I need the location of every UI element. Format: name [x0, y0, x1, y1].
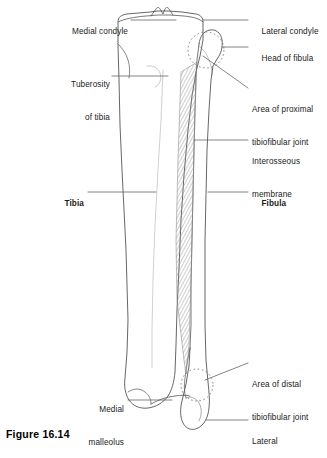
label-medial-condyle-text: Medial condyle — [72, 27, 128, 36]
tibia-anterior-border — [152, 70, 163, 368]
label-tuberosity-of-tibia-line1: Tuberosity — [0, 79, 110, 90]
bone-drawing — [118, 8, 222, 430]
proximal-tibiofibular-joint-marker — [188, 32, 224, 68]
leader-area-of-proximal-tibiofibular-joint — [203, 56, 248, 88]
label-head-of-fibula: Head of fibula — [252, 42, 327, 75]
figure-container: Medial condyle Tuberosity of tibia Tibia… — [0, 0, 327, 458]
medial-malleolus-detail — [128, 389, 151, 404]
label-area-of-proximal-tibiofibular-joint-line1: Area of proximal — [252, 104, 327, 115]
label-tuberosity-of-tibia-line2: of tibia — [0, 112, 110, 123]
label-medial-malleolus-line1: Medial — [0, 404, 124, 415]
leader-lines — [88, 20, 248, 420]
label-medial-condyle: Medial condyle — [0, 15, 128, 48]
tibial-plateau-rim — [118, 15, 203, 22]
lateral-malleolus-detail — [186, 397, 201, 421]
figure-caption: Figure 16.14 — [6, 428, 70, 440]
interosseous-membrane-fill — [176, 62, 197, 374]
label-lateral-condyle-text: Lateral condyle — [262, 27, 319, 36]
leader-area-of-distal-tibiofibular-joint — [205, 363, 248, 380]
tibial-tuberosity — [147, 66, 161, 87]
label-lateral-malleolus: Lateral malleolus — [252, 414, 327, 458]
label-tibia-text: Tibia — [65, 199, 84, 208]
label-fibula: Fibula — [252, 187, 327, 220]
label-tibia: Tibia — [0, 187, 84, 220]
label-interosseous-membrane-line1: Interosseous — [252, 156, 327, 167]
label-area-of-distal-tibiofibular-joint-line1: Area of distal — [252, 379, 327, 390]
medial-condyle-contour — [118, 44, 130, 78]
label-fibula-text: Fibula — [262, 199, 287, 208]
label-head-of-fibula-text: Head of fibula — [262, 54, 314, 63]
label-medial-malleolus: Medial malleolus — [0, 382, 124, 458]
interosseous-membrane — [176, 62, 197, 374]
label-lateral-malleolus-line1: Lateral — [252, 436, 327, 447]
label-tuberosity-of-tibia: Tuberosity of tibia — [0, 57, 110, 145]
